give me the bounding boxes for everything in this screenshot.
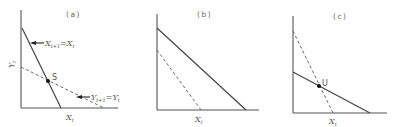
panel-a: (a) S Yt Xt Xt+1=Xt Yt+1=Yt bbox=[7, 10, 121, 123]
panel-c-dashed-isocline bbox=[293, 31, 333, 113]
panel-a-x-axis-label: Xt bbox=[65, 113, 75, 123]
panel-c-equilibrium-point bbox=[317, 84, 321, 88]
panel-a-label: (a) bbox=[66, 10, 81, 19]
phase-diagrams: (a) S Yt Xt Xt+1=Xt Yt+1=Yt (b) Xt (c) bbox=[0, 0, 398, 127]
panel-a-y-axis-label: Yt bbox=[7, 60, 17, 68]
panel-c-point-label: U bbox=[322, 79, 328, 88]
panel-a-y-isocline-annotation: Yt+1=Yt bbox=[91, 93, 121, 103]
panel-a-equilibrium-point bbox=[46, 79, 50, 83]
arrowhead-icon bbox=[76, 95, 82, 99]
panel-b-label: (b) bbox=[197, 10, 212, 19]
panel-a-point-label: S bbox=[52, 73, 57, 82]
panel-a-x-isocline-annotation: Xt+1=Xt bbox=[44, 39, 76, 49]
panel-c-label: (c) bbox=[333, 12, 347, 21]
panel-b-x-axis-label: Xt bbox=[194, 115, 204, 125]
panel-b-dashed-isocline bbox=[157, 50, 201, 110]
panel-c-x-axis-label: Xt bbox=[328, 117, 338, 127]
panel-a-x-isocline bbox=[22, 28, 61, 108]
panel-c-solid-isocline bbox=[293, 72, 370, 113]
arrowhead-icon bbox=[30, 41, 36, 45]
panel-c: (c) U Xt bbox=[293, 12, 387, 127]
svg-text:Yt: Yt bbox=[7, 60, 17, 68]
panel-b: (b) Xt bbox=[157, 10, 259, 125]
